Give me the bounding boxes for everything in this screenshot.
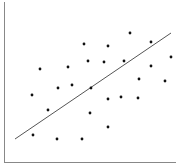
data-point xyxy=(129,32,132,35)
scatter-chart xyxy=(0,0,181,166)
data-point xyxy=(57,87,60,90)
data-point xyxy=(87,60,90,63)
data-point xyxy=(150,41,153,44)
data-point xyxy=(170,56,173,59)
data-point xyxy=(89,112,92,115)
trend-line xyxy=(15,33,171,139)
data-point xyxy=(107,98,110,101)
data-point xyxy=(56,138,59,141)
data-point xyxy=(107,126,110,129)
data-point xyxy=(90,87,93,90)
data-point xyxy=(103,61,106,64)
data-point xyxy=(123,60,126,63)
data-point xyxy=(32,134,35,137)
data-point xyxy=(83,43,86,46)
data-point xyxy=(120,96,123,99)
data-point xyxy=(164,80,167,83)
data-point xyxy=(31,94,34,97)
data-point xyxy=(71,84,74,87)
data-point xyxy=(137,97,140,100)
data-point xyxy=(81,138,84,141)
data-point xyxy=(67,66,70,69)
data-point xyxy=(150,65,153,68)
data-point xyxy=(138,78,141,81)
data-point xyxy=(47,109,50,112)
data-point xyxy=(107,45,110,48)
data-point xyxy=(39,68,42,71)
data-points xyxy=(31,32,173,141)
